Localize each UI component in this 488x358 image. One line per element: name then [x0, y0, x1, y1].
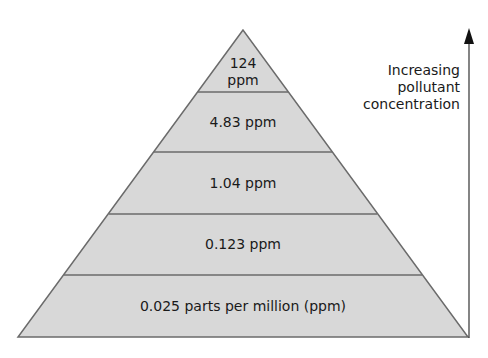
level-3-label: 1.04 ppm: [143, 175, 343, 192]
arrow-label-line-3: concentration: [363, 96, 460, 113]
arrow-label-line-2: pollutant: [363, 79, 460, 96]
arrow-label-line-1: Increasing: [363, 62, 460, 79]
arrow-up-icon: [464, 28, 474, 44]
arrow-label: Increasing pollutant concentration: [363, 62, 460, 113]
level-1-unit: ppm: [213, 72, 273, 89]
level-2-label: 4.83 ppm: [163, 114, 323, 131]
level-5-label: 0.025 parts per million (ppm): [73, 298, 413, 315]
level-1-label: 124 ppm: [213, 55, 273, 89]
level-1-value: 124: [213, 55, 273, 72]
level-4-label: 0.123 ppm: [123, 236, 363, 253]
